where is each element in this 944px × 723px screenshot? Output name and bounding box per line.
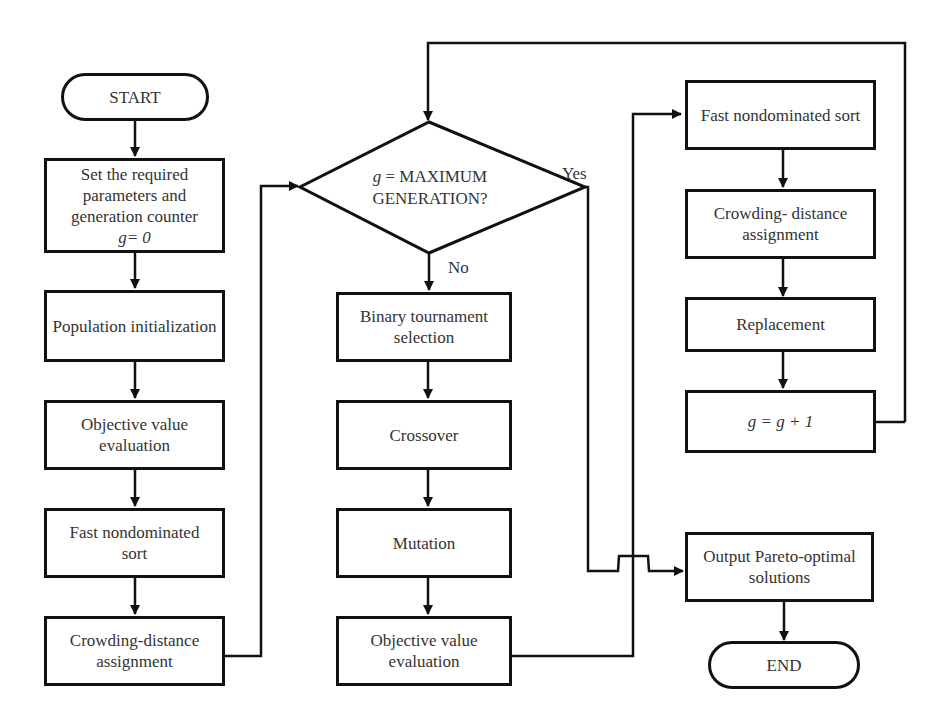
fns-1-line-1: Fast nondominated — [70, 522, 200, 543]
decision-line-2: GENERATION? — [340, 188, 520, 210]
fast-nondominated-sort-box-1: Fast nondominated sort — [44, 508, 225, 578]
crossover-box: Crossover — [336, 400, 512, 470]
start-terminal: START — [61, 73, 209, 121]
replacement-label: Replacement — [736, 314, 825, 335]
set-parameters-box: Set the required parameters and generati… — [44, 158, 225, 253]
crowding-distance-box-1: Crowding-distance assignment — [44, 616, 225, 686]
fns-2-label: Fast nondominated sort — [701, 105, 861, 126]
output-line-1: Output Pareto-optimal — [703, 546, 856, 567]
crowd-1-line-2: assignment — [96, 651, 173, 672]
increment-generation-box: g = g + 1 — [685, 390, 876, 453]
obj-eval-2-line-2: evaluation — [389, 651, 460, 672]
mutation-box: Mutation — [336, 508, 512, 578]
set-params-line-3: generation counter — [71, 206, 198, 227]
start-label: START — [109, 87, 160, 108]
crowd-2-line-2: assignment — [742, 224, 819, 245]
output-line-2: solutions — [749, 567, 810, 588]
output-pareto-box: Output Pareto-optimal solutions — [685, 532, 874, 602]
set-params-line-1: Set the required — [81, 164, 189, 185]
set-params-line-4: g= 0 — [118, 227, 151, 248]
end-label: END — [767, 655, 802, 676]
crossover-label: Crossover — [390, 425, 459, 446]
fast-nondominated-sort-box-2: Fast nondominated sort — [685, 80, 876, 150]
replacement-box: Replacement — [685, 297, 876, 352]
obj-eval-1-line-2: evaluation — [99, 435, 170, 456]
fns-1-line-2: sort — [122, 543, 148, 564]
bts-line-1: Binary tournament — [360, 306, 488, 327]
decision-line-1-rest: = MAXIMUM — [386, 167, 488, 186]
increment-label: g = g + 1 — [748, 411, 813, 432]
decision-text: g g = MAXIMUM= MAXIMUM GENERATION? — [340, 166, 520, 210]
mutation-label: Mutation — [393, 533, 455, 554]
population-initialization-label: Population initialization — [53, 316, 217, 337]
obj-eval-1-line-1: Objective value — [81, 414, 188, 435]
population-initialization-box: Population initialization — [44, 290, 225, 362]
objective-evaluation-box-2: Objective value evaluation — [336, 616, 512, 686]
arrow-crowd-to-decision — [224, 186, 298, 656]
no-label: No — [448, 258, 469, 278]
binary-tournament-box: Binary tournament selection — [336, 292, 512, 362]
crowd-2-line-1: Crowding- distance — [714, 203, 848, 224]
yes-label: Yes — [562, 164, 587, 184]
crowding-distance-box-2: Crowding- distance assignment — [685, 189, 876, 259]
set-params-line-2: parameters and — [83, 185, 186, 206]
obj-eval-2-line-1: Objective value — [370, 630, 477, 651]
crowd-1-line-1: Crowding-distance — [70, 630, 199, 651]
bts-line-2: selection — [394, 327, 454, 348]
objective-evaluation-box-1: Objective value evaluation — [44, 400, 225, 470]
end-terminal: END — [708, 641, 860, 689]
